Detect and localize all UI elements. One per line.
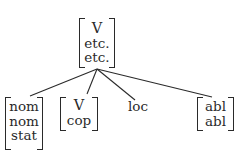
child-feature: abl <box>197 114 234 129</box>
root-node: V etc. etc. <box>79 18 115 68</box>
root-feature: etc. <box>79 36 115 51</box>
child-node-loc: loc <box>128 99 148 113</box>
child-feature: nom <box>5 99 43 114</box>
child-feature: V <box>60 98 98 113</box>
child-feature: cop <box>60 113 98 128</box>
child-feature: nom <box>5 114 43 129</box>
child-feature: abl <box>197 99 234 114</box>
child-node-v-cop: V cop <box>60 97 98 131</box>
child-feature: stat <box>5 128 43 143</box>
child-node-nom: nom nom stat <box>5 97 43 150</box>
root-feature: V <box>79 21 115 36</box>
child-node-abl: abl abl <box>197 97 234 131</box>
edge-root-to-nom <box>30 69 97 96</box>
root-feature: etc. <box>79 50 115 65</box>
